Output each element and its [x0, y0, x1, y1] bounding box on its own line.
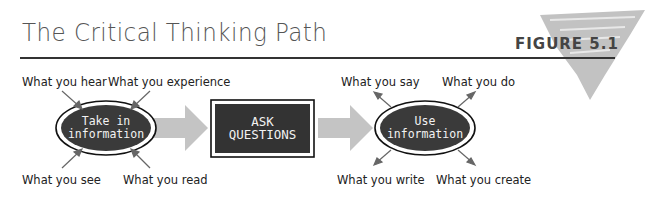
input-label-see: What you see	[22, 173, 101, 187]
input-label-hear: What you hear	[22, 75, 107, 89]
arrow-to-use-icon	[318, 105, 373, 151]
arrow-to-ask-icon	[150, 105, 208, 151]
use-node-label: Use information	[380, 115, 470, 141]
input-label-read: What you read	[123, 173, 208, 187]
input-label-experience: What you experience	[108, 75, 230, 89]
take-in-node-label: Take in information	[61, 115, 151, 141]
diagram-canvas	[0, 0, 654, 200]
ask-line2: QUESTIONS	[215, 128, 310, 141]
output-label-create: What you create	[436, 173, 531, 187]
output-label-write: What you write	[337, 173, 425, 187]
use-line2: information	[380, 128, 470, 141]
output-label-do: What you do	[442, 75, 515, 89]
ask-node-label: ASK QUESTIONS	[215, 115, 310, 141]
output-label-say: What you say	[341, 75, 420, 89]
take-in-line2: information	[61, 128, 151, 141]
